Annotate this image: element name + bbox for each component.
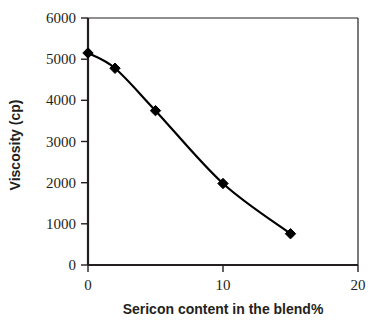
x-tick-label-20: 20 [351, 277, 366, 293]
y-axis-title: Viscosity (cp) [7, 100, 23, 191]
data-point-0 [83, 48, 93, 58]
y-tick-label-2000: 2000 [46, 175, 76, 191]
viscosity-line-chart: 0 1000 2000 3000 4000 5000 6000 0 10 20 … [0, 0, 376, 329]
series-curve [88, 53, 291, 234]
y-axis-tick-labels: 0 1000 2000 3000 4000 5000 6000 [46, 10, 76, 273]
chart-canvas: 0 1000 2000 3000 4000 5000 6000 0 10 20 … [0, 0, 376, 329]
y-tick-label-5000: 5000 [46, 51, 76, 67]
y-tick-label-0: 0 [69, 257, 77, 273]
x-tick-label-0: 0 [84, 277, 92, 293]
x-axis-tick-labels: 0 10 20 [84, 277, 365, 293]
y-tick-label-4000: 4000 [46, 92, 76, 108]
data-series-viscosity [83, 48, 296, 239]
y-tick-label-3000: 3000 [46, 134, 76, 150]
series-markers [83, 48, 296, 239]
x-axis-title: Sericon content in the blend% [123, 301, 324, 317]
x-tick-label-10: 10 [216, 277, 231, 293]
y-tick-label-6000: 6000 [46, 10, 76, 26]
y-tick-label-1000: 1000 [46, 216, 76, 232]
plot-frame [88, 18, 358, 265]
